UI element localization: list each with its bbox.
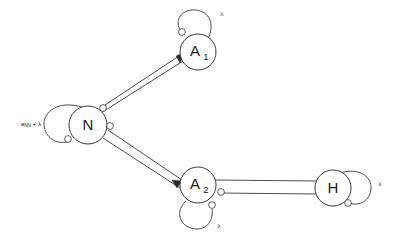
svg-text:aNN + λ: aNN + λ: [21, 120, 42, 128]
edge-a2-to-h-line-upper: [215, 180, 316, 181]
a2-self-terminal-icon: [209, 202, 216, 209]
network-diagram-svg: N A 1 A 2 H λ λ λ aNN + λ: [0, 0, 397, 240]
self-loop-a2-arc: [180, 201, 213, 229]
edge-n-to-a2-line-lower: [103, 138, 180, 188]
lambda-label-a2: λ: [217, 222, 221, 230]
edge-a2-to-h: [215, 180, 316, 194]
n-to-a2-terminal-icon: [107, 123, 114, 130]
node-n-label: N: [83, 116, 94, 133]
edge-n-to-a2: [103, 130, 182, 188]
node-n[interactable]: N: [69, 106, 107, 144]
h-self-terminal-icon: [345, 200, 352, 207]
n-weight-lambda: λ: [38, 120, 42, 127]
node-a2[interactable]: A 2: [180, 167, 216, 203]
node-a1-sublabel: 1: [203, 51, 208, 62]
n-self-terminal-icon: [65, 136, 72, 143]
a1-self-terminal-icon: [179, 29, 186, 36]
node-a1[interactable]: A 1: [180, 34, 216, 70]
lambda-label-a1: λ: [220, 10, 224, 18]
diagram-canvas: N A 1 A 2 H λ λ λ aNN + λ: [0, 0, 397, 240]
edge-n-to-a1-line-upper: [105, 52, 185, 105]
n-self-loop-weight-label: aNN + λ: [21, 120, 42, 128]
edge-n-to-a2-line-upper: [108, 130, 182, 180]
edge-n-to-a1-line-lower: [101, 61, 183, 113]
node-a1-label: A: [190, 42, 200, 59]
lambda-label-h: λ: [378, 180, 382, 188]
n-weight-subscript: NN: [24, 123, 31, 128]
n-to-a1-terminal-icon: [100, 105, 107, 112]
node-h-label: H: [328, 179, 339, 196]
edge-n-to-a1: [101, 52, 185, 113]
node-a2-sublabel: 2: [203, 184, 208, 195]
node-a2-label: A: [190, 175, 200, 192]
self-loop-a2: [180, 201, 213, 229]
a2-to-h-terminal-icon: [218, 189, 225, 196]
edge-a2-to-h-line-lower: [219, 193, 316, 194]
n-weight-plus: +: [31, 120, 38, 127]
